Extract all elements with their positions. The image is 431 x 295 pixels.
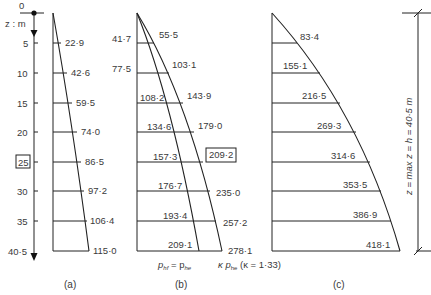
panel-b-outer-value: 55·5 <box>159 29 178 40</box>
panel-c-dimension-label: z = max z = h = 40·5 m <box>403 97 414 196</box>
panel-b: 41·7 77·5 108·2 134·6 157·3 176·7 193·4 … <box>112 13 281 290</box>
panel-c-value: 269·3 <box>317 120 341 131</box>
panel-b-inner-value: 108·2 <box>140 92 164 103</box>
panel-b-outer-value: 278·1 <box>228 245 252 256</box>
panel-c-value: 83·4 <box>300 31 319 42</box>
panel-a-value: 42·6 <box>71 67 90 78</box>
panel-b-outer-value: 143·9 <box>187 90 211 101</box>
panel-b-inner-value: 41·7 <box>112 33 131 44</box>
panel-b-outer-value: 209·2 <box>209 149 233 160</box>
tick-label-15: 15 <box>17 98 28 109</box>
panel-a-value: 22·9 <box>65 37 84 48</box>
panel-b-outer-value: 179·0 <box>198 120 222 131</box>
panel-a-value: 59·5 <box>76 97 95 108</box>
tick-label-40-5: 40·5 <box>8 246 27 257</box>
panel-a-value: 74·0 <box>81 126 100 137</box>
panel-c-value: 386·9 <box>353 209 377 220</box>
tick-label-35: 35 <box>17 216 28 227</box>
panel-b-inner-value: 209·1 <box>168 239 192 250</box>
panel-a-value: 97·2 <box>88 185 107 196</box>
tick-label-20: 20 <box>17 127 28 138</box>
panel-c-value: 418·1 <box>366 239 390 250</box>
panel-c-value: 353·5 <box>343 179 367 190</box>
panel-c-value: 314·6 <box>331 150 355 161</box>
panel-b-outer-value: 103·1 <box>172 59 196 70</box>
panel-c-value: 155·1 <box>283 60 307 71</box>
tick-label-25: 25 <box>18 157 29 168</box>
panel-b-legend-inner: phf = phe <box>157 259 192 271</box>
tick-label-10: 10 <box>17 68 28 79</box>
axis-arrow-bottom-icon <box>31 253 38 261</box>
panel-b-legend-outer: κ phe (κ = 1·33) <box>218 259 281 271</box>
panel-b-inner-value: 193·4 <box>163 210 187 221</box>
axis-unit-label: z : m <box>5 18 26 29</box>
panel-b-inner-value: 134·6 <box>147 121 171 132</box>
diagram-canvas: 0 z : m 5 10 15 20 25 30 35 40·5 22·9 42… <box>0 0 431 295</box>
panel-a-value: 115·0 <box>93 245 117 256</box>
panel-b-outer-value: 257·2 <box>223 217 247 228</box>
panel-b-inner-value: 77·5 <box>112 63 131 74</box>
axis-arrow-top-icon <box>31 30 38 37</box>
panel-b-inner-value: 157·3 <box>153 151 177 162</box>
panel-a-caption: (a) <box>64 279 76 290</box>
panel-b-outer-value: 235·0 <box>216 187 240 198</box>
axis-zero-label: 0 <box>19 0 24 11</box>
panel-c-caption: (c) <box>333 279 345 290</box>
tick-label-30: 30 <box>17 186 28 197</box>
panel-c: 83·4 155·1 216·5 269·3 314·6 353·5 386·9… <box>272 9 431 290</box>
panel-c-value: 216·5 <box>302 90 326 101</box>
panel-b-inner-value: 176·7 <box>158 180 182 191</box>
panel-a: 22·9 42·6 59·5 74·0 86·5 97·2 106·4 115·… <box>53 13 117 290</box>
panel-a-value: 86·5 <box>85 156 104 167</box>
panel-b-caption: (b) <box>175 279 187 290</box>
tick-label-5: 5 <box>23 38 28 49</box>
axis-origin-dot <box>31 10 36 15</box>
depth-axis: 0 z : m 5 10 15 20 25 30 35 40·5 <box>5 0 44 261</box>
panel-a-value: 106·4 <box>90 215 114 226</box>
